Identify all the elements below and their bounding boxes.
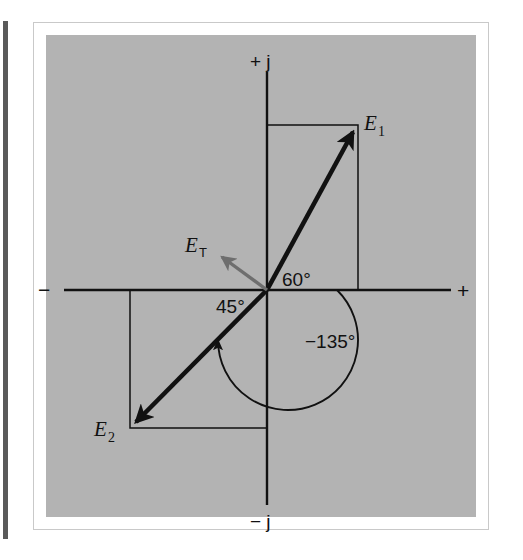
svg-text:E: E <box>184 233 198 257</box>
svg-text:T: T <box>199 245 207 260</box>
angle-label-60: 60° <box>282 269 311 290</box>
imaginary-negative-label: − j <box>250 511 271 532</box>
phasor-diagram: − + + j − j E 1 E 2 E T 60° 45° −135° <box>0 0 523 560</box>
svg-text:E: E <box>93 417 107 441</box>
angle-label-minus-135: −135° <box>305 331 355 352</box>
phasor-label-et: E T <box>184 233 207 260</box>
phasor-e1 <box>267 132 353 290</box>
phasor-et <box>222 257 267 290</box>
phasor-e2 <box>136 290 267 422</box>
phasor-label-e2: E 2 <box>93 417 115 445</box>
svg-text:2: 2 <box>108 430 115 445</box>
svg-text:1: 1 <box>378 124 385 139</box>
real-negative-label: − <box>38 278 50 301</box>
phasor-label-e1: E 1 <box>363 111 385 139</box>
imaginary-positive-label: + j <box>250 51 271 72</box>
svg-text:E: E <box>363 111 377 135</box>
real-positive-label: + <box>457 279 469 302</box>
angle-label-45: 45° <box>216 296 245 317</box>
